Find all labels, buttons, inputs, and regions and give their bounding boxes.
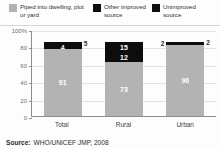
y-tick-60: 60 — [20, 63, 27, 69]
stacked-bar-total[interactable]: 5 4 91 — [44, 31, 82, 116]
x-label-rural: Rural — [93, 121, 154, 128]
segment-value-piped-rural: 73 — [120, 86, 128, 93]
y-tick-40: 40 — [20, 80, 27, 86]
segment-value-unimproved-rural: 15 — [120, 44, 128, 51]
source-prefix: Source: — [6, 139, 31, 146]
legend-swatch-piped — [9, 4, 17, 12]
y-axis: 100% 80 60 40 20 0 — [0, 27, 30, 131]
segment-other-improved-rural[interactable]: 12 — [105, 53, 143, 62]
segment-piped-rural[interactable]: 73 — [105, 62, 143, 116]
legend-item-unimproved: Unimproved source — [152, 3, 214, 18]
segment-piped-total[interactable]: 91 — [44, 49, 82, 116]
x-axis-labels: Total Rural Urban — [31, 118, 216, 131]
y-tick-0: 0 — [24, 115, 27, 121]
source-note: Source:WHO/UNICEF JMP, 2008 — [6, 139, 109, 146]
segment-unimproved-rural[interactable]: 15 — [105, 42, 143, 53]
segment-value-unimproved-total: 5 — [84, 41, 88, 48]
legend-swatch-other-improved — [93, 4, 101, 12]
segment-value-unimproved-urban: 2 — [206, 40, 210, 47]
y-tick-80: 80 — [20, 45, 27, 51]
y-tick-100: 100% — [12, 28, 27, 34]
stacked-bar-urban[interactable]: 2 2 96 — [166, 31, 204, 116]
plot-canvas: 5 4 91 15 — [31, 31, 216, 117]
chart-legend: Piped into dwelling, plot or yard Other … — [0, 0, 220, 26]
stacked-bar-rural[interactable]: 15 12 73 — [105, 31, 143, 116]
legend-item-other-improved: Other improved source — [93, 3, 149, 18]
segment-piped-urban[interactable]: 96 — [166, 45, 204, 116]
segment-value-piped-urban: 96 — [181, 77, 189, 84]
segment-value-other-improved-rural: 12 — [120, 54, 128, 61]
segment-value-piped-total: 91 — [59, 79, 67, 86]
legend-swatch-unimproved — [152, 4, 160, 12]
bar-series: 5 4 91 15 — [32, 31, 216, 116]
legend-label-unimproved: Unimproved source — [163, 3, 214, 18]
x-label-urban: Urban — [155, 121, 216, 128]
x-label-total: Total — [31, 121, 92, 128]
source-text: WHO/UNICEF JMP, 2008 — [34, 139, 109, 146]
legend-label-piped: Piped into dwelling, plot or yard — [20, 3, 89, 18]
bar-group-urban: 2 2 96 — [155, 31, 216, 116]
bar-group-total: 5 4 91 — [32, 31, 93, 116]
legend-label-other-improved: Other improved source — [104, 3, 149, 18]
plot-area: 100% 80 60 40 20 0 — [0, 27, 220, 131]
legend-item-piped: Piped into dwelling, plot or yard — [9, 3, 89, 18]
bar-group-rural: 15 12 73 — [94, 31, 155, 116]
segment-value-other-improved-urban: 2 — [161, 41, 165, 48]
chart-figure: Piped into dwelling, plot or yard Other … — [0, 0, 220, 149]
y-tick-20: 20 — [20, 98, 27, 104]
